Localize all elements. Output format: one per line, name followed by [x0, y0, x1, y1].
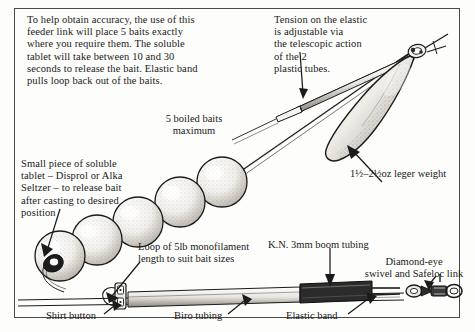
shirt-button-label: Shirt button: [46, 310, 116, 322]
tension-note: Tension on the elastic is adjustable via…: [274, 14, 389, 75]
leger-weight-label: 1½–2½oz leger weight: [350, 168, 470, 180]
loop-label: Loop of 5lb monofilament length to suit …: [138, 241, 288, 265]
elastic-band-label: Elastic band: [286, 310, 360, 322]
swivel-label: Diamond-eye swivel and Safeloc link: [358, 256, 470, 280]
boom-tubing-label: K.N. 3mm boom tubing: [268, 239, 388, 251]
boom-tubing: [300, 281, 372, 303]
biro-tubing-label: Biro tubing: [174, 310, 244, 322]
baits-label: 5 boiled baits maximum: [128, 113, 260, 137]
tablet-note: Small piece of soluble tablet – Disprol …: [21, 158, 181, 219]
intro-paragraph: To help obtain accuracy, the use of this…: [27, 14, 243, 87]
figure-canvas: To help obtain accuracy, the use of this…: [0, 0, 475, 332]
biro-tubing: [128, 287, 300, 307]
